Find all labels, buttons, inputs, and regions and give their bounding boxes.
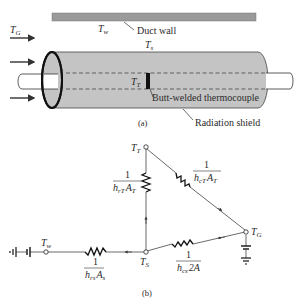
wall-temp-label: Tw [98, 23, 109, 36]
node-TS [144, 250, 148, 254]
thermocouple-label: Butt-welded thermocouple [152, 92, 259, 103]
resistor-rs [85, 248, 106, 255]
duct-wall-label: Duct wall [137, 25, 176, 36]
resistor-rT [142, 173, 150, 192]
thermocouple-shield-diagram: Duct wall TG Tw Ts TT Butt-welded thermo… [0, 0, 301, 304]
caption-a: (a) [138, 118, 148, 128]
svg-text:hcs2A: hcs2A [177, 262, 201, 275]
node-TG-label: TG [251, 226, 262, 239]
duct-wall-callout-line [124, 22, 134, 30]
caption-b: (b) [142, 288, 152, 298]
svg-text:1: 1 [186, 249, 191, 260]
svg-text:hrsAs: hrsAs [85, 269, 106, 282]
node-TT-label: TT [131, 142, 142, 155]
svg-text:hrTAT: hrTAT [113, 182, 137, 195]
thermocouple-junction [146, 73, 150, 89]
figure-b: TT TG TS Tw 1 hrTAT 1 hcTAT 1 hcs2A 1 hr… [10, 142, 262, 298]
node-TT [144, 145, 148, 149]
svg-text:hcTAT: hcTAT [194, 172, 218, 185]
svg-text:1: 1 [204, 159, 209, 170]
resistor-cT [176, 173, 190, 187]
figure-a: Duct wall TG Tw Ts TT Butt-welded thermo… [10, 13, 293, 128]
shield-temp-label: Ts [145, 39, 154, 52]
node-Tw-label: Tw [41, 237, 52, 250]
resistance-cs-label: 1 hcs2A [176, 249, 201, 275]
node-TG [244, 230, 248, 234]
duct-wall [52, 13, 256, 21]
resistor-cs [172, 240, 193, 247]
node-Tw [44, 250, 48, 254]
svg-text:1: 1 [125, 169, 130, 180]
resistance-rT-label: 1 hrTAT [113, 169, 141, 195]
gas-temp-label: TG [10, 24, 21, 37]
resistance-cT-label: 1 hcTAT [193, 159, 221, 185]
node-TS-label: TS [140, 256, 150, 269]
svg-text:1: 1 [93, 256, 98, 267]
radiation-shield-label: Radiation shield [195, 117, 260, 128]
thermocouple-wire-right [266, 73, 293, 89]
resistance-rs-label: 1 hrsAs [84, 256, 106, 282]
